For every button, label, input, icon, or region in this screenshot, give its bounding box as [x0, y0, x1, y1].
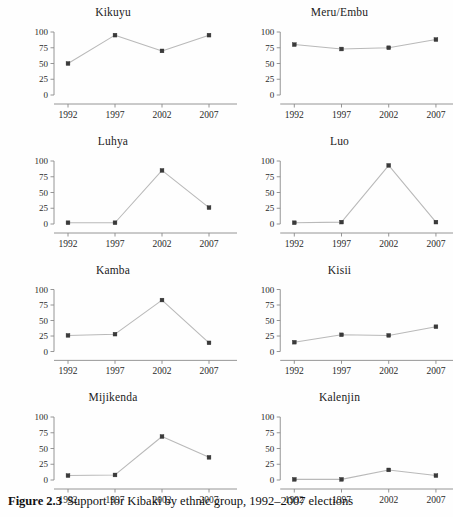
series-line-luo	[294, 165, 436, 222]
y-tick-label-50: 50	[265, 188, 275, 198]
y-tick-label-50: 50	[265, 316, 275, 326]
y-tick-label-50: 50	[265, 444, 275, 454]
data-point-kikuyu-1992	[66, 62, 70, 66]
y-tick-label-25: 25	[39, 74, 49, 84]
x-tick-label-2002: 2002	[153, 110, 172, 120]
figure-container: Kikuyu02550751001992199720022007Meru/Emb…	[0, 0, 453, 517]
x-tick-label-2002: 2002	[153, 239, 172, 249]
plot-area-luo: 02550751001992199720022007	[226, 129, 453, 258]
y-tick-label-50: 50	[39, 316, 49, 326]
data-point-kikuyu-2002	[160, 49, 164, 53]
y-tick-label-100: 100	[35, 156, 49, 166]
y-tick-label-75: 75	[39, 43, 49, 53]
y-tick-label-50: 50	[265, 59, 275, 69]
y-tick-label-0: 0	[44, 475, 49, 485]
x-tick-label-2002: 2002	[153, 366, 172, 376]
y-tick-label-100: 100	[35, 412, 49, 422]
data-point-kamba-1997	[113, 332, 117, 336]
y-tick-label-100: 100	[35, 285, 49, 295]
y-tick-label-100: 100	[261, 27, 275, 37]
y-tick-label-25: 25	[39, 331, 49, 341]
data-point-meru-embu-1997	[340, 47, 344, 51]
data-point-kamba-2002	[160, 298, 164, 302]
panel-luo: Luo02550751001992199720022007	[226, 129, 453, 258]
y-tick-label-100: 100	[261, 285, 275, 295]
x-tick-label-2007: 2007	[426, 366, 445, 376]
y-tick-label-0: 0	[43, 347, 48, 357]
plot-area-kikuyu: 02550751001992199720022007	[0, 0, 226, 129]
x-tick-label-1997: 1997	[332, 239, 351, 249]
x-tick-label-1997: 1997	[332, 366, 351, 376]
series-line-mijikenda	[68, 437, 209, 476]
y-tick-label-0: 0	[270, 219, 275, 229]
data-point-luo-2002	[387, 164, 391, 168]
figure-caption: Figure 2.3Support for Kibaki by ethnic g…	[8, 494, 448, 509]
y-tick-label-75: 75	[39, 428, 49, 438]
panel-meru-embu: Meru/Embu02550751001992199720022007	[226, 0, 453, 129]
x-tick-label-1992: 1992	[285, 366, 304, 376]
x-tick-label-2007: 2007	[200, 110, 219, 120]
x-tick-label-1997: 1997	[106, 366, 125, 376]
x-tick-label-2007: 2007	[426, 110, 445, 120]
x-tick-label-2002: 2002	[379, 110, 398, 120]
y-tick-label-25: 25	[265, 203, 275, 213]
data-point-luhya-2007	[207, 206, 211, 210]
y-tick-label-0: 0	[44, 219, 49, 229]
y-tick-label-0: 0	[270, 475, 275, 485]
x-tick-label-1992: 1992	[285, 239, 304, 249]
data-point-kalenjin-1992	[292, 477, 296, 481]
y-tick-label-75: 75	[265, 172, 275, 182]
x-tick-label-2007: 2007	[200, 366, 219, 376]
x-tick-label-2007: 2007	[200, 239, 219, 249]
data-point-kisii-2002	[387, 334, 391, 338]
data-point-meru-embu-2007	[434, 38, 438, 42]
data-point-mijikenda-2007	[207, 455, 211, 459]
x-tick-label-2007: 2007	[426, 239, 445, 249]
y-tick-label-75: 75	[39, 300, 49, 310]
data-point-mijikenda-1992	[66, 474, 70, 478]
y-tick-label-50: 50	[39, 444, 49, 454]
y-tick-label-100: 100	[261, 412, 275, 422]
y-tick-label-75: 75	[265, 43, 275, 53]
figure-caption-text: Support for Kibaki by ethnic group, 1992…	[67, 494, 353, 508]
data-point-kisii-2007	[434, 325, 438, 329]
data-point-luhya-1997	[113, 221, 117, 225]
panel-kamba: Kamba02550751001992199720022007	[0, 258, 226, 385]
plot-area-kisii: 02550751001992199720022007	[226, 258, 453, 385]
series-line-luhya	[68, 170, 209, 222]
data-point-kalenjin-2002	[387, 468, 391, 472]
plot-area-meru-embu: 02550751001992199720022007	[226, 0, 453, 129]
series-line-meru-embu	[294, 40, 436, 49]
y-tick-label-25: 25	[265, 459, 275, 469]
data-point-meru-embu-1992	[292, 43, 296, 47]
series-line-kikuyu	[68, 35, 209, 63]
x-tick-label-1992: 1992	[59, 239, 78, 249]
panel-luhya: Luhya02550751001992199720022007	[0, 129, 226, 258]
panel-kikuyu: Kikuyu02550751001992199720022007	[0, 0, 226, 129]
data-point-luhya-2002	[160, 169, 164, 173]
y-tick-label-0: 0	[270, 347, 275, 357]
data-point-luhya-1992	[66, 221, 70, 225]
y-tick-label-75: 75	[39, 172, 49, 182]
data-point-luo-1992	[292, 221, 296, 225]
data-point-kikuyu-1997	[113, 33, 117, 37]
y-tick-label-75: 75	[265, 428, 275, 438]
x-tick-label-1992: 1992	[285, 110, 304, 120]
x-tick-label-1992: 1992	[59, 110, 78, 120]
y-tick-label-25: 25	[265, 74, 275, 84]
y-tick-label-0: 0	[44, 90, 49, 100]
series-line-kisii	[294, 327, 436, 343]
data-point-kisii-1992	[292, 340, 296, 344]
x-tick-label-1997: 1997	[332, 110, 351, 120]
y-tick-label-0: 0	[270, 90, 275, 100]
x-tick-label-2002: 2002	[379, 366, 398, 376]
x-tick-label-2002: 2002	[379, 239, 398, 249]
series-line-kamba	[68, 300, 209, 343]
x-tick-label-1997: 1997	[106, 239, 125, 249]
y-tick-label-100: 100	[261, 156, 275, 166]
plot-area-kamba: 02550751001992199720022007	[0, 258, 226, 385]
figure-caption-label: Figure 2.3	[8, 494, 62, 508]
series-line-kalenjin	[294, 470, 436, 479]
data-point-kisii-1997	[340, 333, 344, 337]
data-point-kamba-2007	[207, 341, 211, 345]
